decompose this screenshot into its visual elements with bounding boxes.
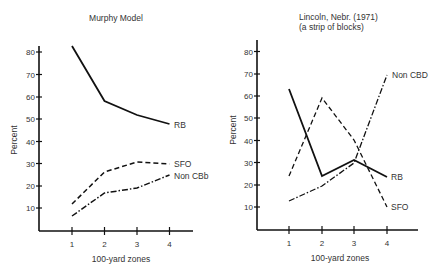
left-chart: Murphy Model 80 70 60 50 40 30 20 10	[9, 13, 209, 264]
right-label-sfo: SFO	[391, 202, 409, 212]
right-y-axis-label: Percent	[228, 115, 238, 145]
svg-text:2: 2	[320, 239, 325, 248]
svg-text:70: 70	[244, 70, 253, 79]
svg-text:80: 80	[26, 48, 35, 57]
right-x-tick-labels: 1 2 3 4	[287, 239, 390, 248]
svg-text:70: 70	[26, 71, 35, 80]
figure: Murphy Model 80 70 60 50 40 30 20 10	[0, 0, 436, 268]
left-label-sfo: SFO	[174, 159, 192, 169]
svg-text:80: 80	[244, 48, 253, 57]
svg-text:30: 30	[26, 160, 35, 169]
left-y-tick-labels: 80 70 60 50 40 30 20 10	[26, 48, 35, 213]
svg-text:20: 20	[244, 181, 253, 190]
left-x-tick-labels: 1 2 3 4	[70, 240, 173, 249]
svg-text:20: 20	[26, 182, 35, 191]
svg-text:10: 10	[244, 203, 253, 212]
svg-text:3: 3	[352, 239, 357, 248]
left-x-axis-label: 100-yard zones	[92, 254, 151, 264]
left-chart-title: Murphy Model	[89, 13, 143, 23]
right-chart-subtitle: (a strip of blocks)	[299, 22, 364, 32]
svg-text:3: 3	[135, 240, 140, 249]
svg-text:60: 60	[244, 92, 253, 101]
right-label-non-cbd: Non CBD	[392, 70, 428, 80]
right-y-tick-labels: 80 70 60 50 40 30 20 10	[244, 48, 253, 213]
svg-text:50: 50	[244, 114, 253, 123]
left-series-non-cbb-line	[72, 175, 170, 216]
right-label-rb: RB	[391, 172, 403, 182]
right-series-rb-line	[289, 89, 387, 177]
svg-text:4: 4	[167, 240, 172, 249]
right-chart: Lincoln, Nebr. (1971) (a strip of blocks…	[228, 12, 428, 263]
svg-text:1: 1	[287, 239, 292, 248]
svg-text:1: 1	[70, 240, 75, 249]
right-x-axis-label: 100-yard zones	[311, 253, 370, 263]
left-series-sfo-line	[72, 162, 170, 204]
svg-text:30: 30	[244, 159, 253, 168]
right-chart-title: Lincoln, Nebr. (1971)	[299, 12, 378, 22]
right-series-non-cbd-line	[289, 75, 387, 201]
left-y-axis-label: Percent	[9, 125, 19, 155]
svg-text:50: 50	[26, 115, 35, 124]
svg-text:4: 4	[385, 239, 390, 248]
svg-text:40: 40	[26, 138, 35, 147]
left-label-rb: RB	[174, 120, 186, 130]
left-label-non-cbb: Non CBb	[174, 171, 209, 181]
svg-text:10: 10	[26, 204, 35, 213]
left-series-rb-line	[72, 46, 170, 124]
svg-text:60: 60	[26, 93, 35, 102]
svg-text:2: 2	[102, 240, 107, 249]
svg-text:40: 40	[244, 137, 253, 146]
